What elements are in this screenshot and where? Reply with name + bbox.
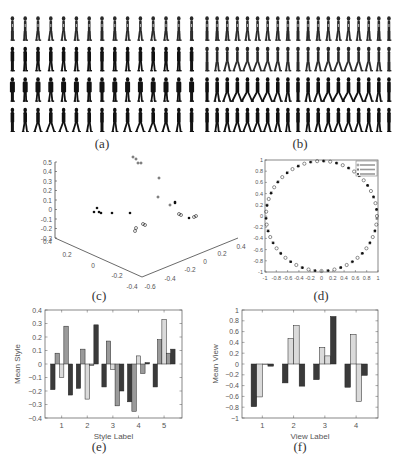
data-point — [365, 247, 368, 250]
data-point — [371, 235, 374, 238]
y-tick-label: -0.6 — [254, 247, 263, 253]
silhouette — [342, 77, 355, 102]
plot-frame — [265, 160, 378, 272]
data-point — [134, 230, 137, 233]
gait-sequence-panel-b — [202, 10, 394, 132]
mean-style-bar-chart: 0.40.30.20.10−0.1−0.2−0.3−0.412345Style … — [0, 302, 196, 442]
data-point — [369, 241, 371, 243]
bar — [288, 339, 294, 364]
silhouette — [242, 108, 252, 132]
bar — [55, 353, 59, 364]
silhouette — [190, 108, 194, 132]
silhouette — [161, 108, 170, 132]
y-tick-label: -0.2 — [254, 224, 263, 230]
y-tick-label: −0.4 — [225, 382, 239, 389]
bar — [251, 364, 257, 407]
silhouette — [215, 16, 220, 41]
silhouette — [296, 47, 300, 72]
y-tick-label: −0.1 — [28, 374, 42, 381]
bar — [162, 319, 166, 364]
x-tick-label: -0.6 — [283, 275, 292, 281]
y-tick-label: 0.2 — [32, 334, 42, 341]
silhouette — [244, 16, 250, 41]
circle-scatter-plot: 10.80.60.40.20-0.2-0.4-0.6-0.8-1-1-0.8-0… — [240, 150, 396, 298]
x-tick-label: 3 — [111, 421, 115, 430]
silhouette — [190, 16, 194, 41]
x-tick-label: -0.2 — [305, 275, 314, 281]
z-tick-label: -0.1 — [41, 216, 53, 223]
silhouette — [296, 16, 300, 41]
silhouette — [354, 108, 364, 132]
silhouette — [333, 47, 343, 72]
silhouette — [23, 77, 28, 102]
data-point — [327, 269, 329, 271]
silhouette — [306, 16, 311, 41]
y-tick-label: 0.2 — [255, 202, 263, 208]
silhouette — [233, 108, 243, 132]
y-tick-label: −0.8 — [225, 404, 239, 411]
data-point — [157, 196, 160, 199]
bar — [89, 364, 93, 365]
silhouette — [189, 77, 194, 102]
silhouette — [176, 47, 181, 72]
y-tick-label: 0.8 — [255, 168, 263, 174]
bar — [119, 364, 123, 391]
silhouette — [112, 47, 117, 72]
bar — [319, 347, 325, 364]
data-point — [135, 227, 138, 230]
bar — [81, 349, 85, 364]
x-tick-label: 1 — [376, 275, 379, 281]
bar — [94, 325, 98, 364]
data-point — [280, 252, 282, 254]
caption-f: (f) — [280, 439, 320, 455]
data-point — [369, 189, 372, 192]
data-point — [132, 156, 135, 159]
silhouette — [323, 108, 333, 132]
bar — [166, 353, 170, 364]
y-tick-label: 0.4 — [255, 191, 263, 197]
data-point — [291, 168, 294, 171]
y-tick-label: 0.2 — [229, 350, 239, 357]
silhouette — [284, 77, 291, 102]
bar — [127, 364, 131, 402]
silhouette — [111, 108, 118, 132]
silhouette — [61, 16, 67, 41]
y-tick-label: −0.3 — [28, 401, 42, 408]
silhouette — [335, 16, 341, 41]
y-tick-label: 0 — [203, 258, 207, 265]
data-point — [265, 223, 268, 226]
data-point — [96, 207, 99, 210]
bar — [102, 364, 106, 387]
scatter-3d-panel-c: 0.50.40.30.20.10-0.1-0.2-0.30.40.20-0.2-… — [0, 150, 250, 298]
y-tick-label: -0.2 — [184, 266, 196, 273]
x-tick-label: 3 — [323, 421, 327, 430]
data-point — [277, 181, 279, 183]
silhouette — [11, 16, 15, 41]
silhouette — [48, 77, 54, 102]
silhouette — [150, 16, 156, 41]
silhouette — [176, 16, 181, 41]
silhouette — [100, 47, 104, 72]
bar — [294, 326, 300, 364]
bar-chart-panel-f: 10.80.60.40.20−0.2−0.4−0.6−0.8−11234View… — [196, 302, 396, 442]
y-tick-label: 0.2 — [217, 250, 226, 257]
silhouette — [214, 47, 220, 72]
silhouette — [365, 47, 373, 72]
silhouette — [205, 77, 209, 102]
silhouette — [263, 47, 273, 72]
bar — [111, 364, 115, 369]
data-point — [281, 176, 284, 179]
data-point — [269, 235, 272, 238]
silhouette — [377, 16, 382, 41]
silhouette — [123, 108, 132, 132]
silhouette — [22, 108, 29, 132]
data-point — [286, 172, 288, 174]
silhouette — [58, 108, 68, 132]
silhouette — [333, 108, 343, 132]
silhouette — [231, 77, 243, 102]
data-point — [111, 212, 114, 215]
silhouette — [296, 77, 300, 102]
silhouette — [314, 108, 322, 132]
y-axis-label: Mean Style — [13, 343, 22, 384]
silhouette — [11, 108, 15, 132]
